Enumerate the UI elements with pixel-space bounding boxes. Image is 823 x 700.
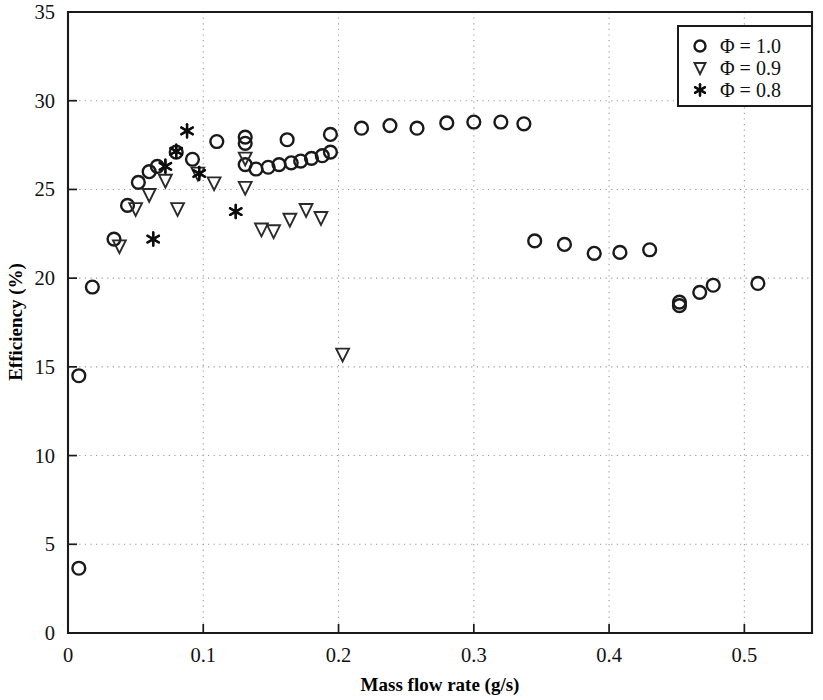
x-tick-label: 0.4 [596,644,622,666]
marker-circle [693,286,706,299]
x-tick-label: 0 [63,644,73,666]
y-tick-label: 5 [45,533,55,555]
y-tick-label: 20 [35,267,56,289]
asterisk-core [174,149,179,154]
asterisk-core [197,171,202,176]
marker-circle [72,562,85,575]
legend-label-3: Φ = 0.8 [720,79,781,101]
x-tick-label: 0.2 [326,644,352,666]
marker-circle [643,243,656,256]
scatter-plot-canvas: 05101520253035 00.10.20.30.40.5 Mass flo… [0,0,823,700]
asterisk-core [163,164,168,169]
marker-circle [281,133,294,146]
marker-circle [186,153,199,166]
marker-triangle-down [315,212,328,225]
marker-asterisk [148,233,159,246]
y-tick-label: 35 [35,1,56,23]
series-2 [113,153,349,362]
marker-circle [384,119,397,132]
marker-circle [440,116,453,129]
marker-asterisk [181,124,192,137]
marker-triangle-down [171,203,184,216]
series-3 [148,124,242,245]
marker-circle [324,146,337,159]
marker-circle [72,369,85,382]
y-tick-label: 15 [35,356,56,378]
legend[interactable]: Φ = 1.0Φ = 0.9Φ = 0.8 [678,26,812,106]
asterisk-core [698,88,702,92]
marker-triangle-down [239,182,252,195]
asterisk-core [151,237,156,242]
y-axis-ticks: 05101520253035 [35,1,78,644]
marker-circle [467,116,480,129]
x-tick-label: 0.5 [732,644,758,666]
marker-circle [494,116,507,129]
x-tick-label: 0.3 [461,644,487,666]
marker-triangle-down [300,204,313,217]
marker-circle [614,246,627,259]
marker-circle [528,234,541,247]
marker-triangle-down [143,189,156,202]
marker-circle [250,163,263,176]
marker-circle [355,122,368,135]
x-axis-ticks: 00.10.20.30.40.5 [63,624,757,666]
marker-triangle-down [159,175,172,188]
x-axis-title: Mass flow rate (g/s) [361,674,520,696]
x-tick-label: 0.1 [190,644,216,666]
marker-triangle-down [255,224,268,237]
marker-circle [210,135,223,148]
marker-triangle-down [283,214,296,227]
y-tick-label: 25 [35,178,56,200]
data-points-group [72,116,764,575]
marker-circle [86,281,99,294]
marker-circle [324,128,337,141]
asterisk-core [233,209,238,214]
marker-triangle-down [208,177,221,190]
asterisk-core [184,128,189,133]
y-tick-label: 30 [35,90,56,112]
marker-circle [707,279,720,292]
marker-circle [411,122,424,135]
marker-asterisk [230,205,241,218]
y-tick-label: 10 [35,445,56,467]
marker-circle [132,176,145,189]
marker-circle [517,117,530,130]
legend-label-1: Φ = 1.0 [720,35,781,57]
y-tick-label: 0 [45,622,55,644]
y-axis-title: Efficiency (%) [5,263,27,381]
series-1 [72,116,764,575]
marker-circle [588,247,601,260]
marker-triangle-down [267,225,280,238]
marker-circle [751,277,764,290]
marker-circle [558,238,571,251]
legend-label-2: Φ = 0.9 [720,57,781,79]
efficiency-vs-mass-flow-rate-chart: 05101520253035 00.10.20.30.40.5 Mass flo… [0,0,823,700]
